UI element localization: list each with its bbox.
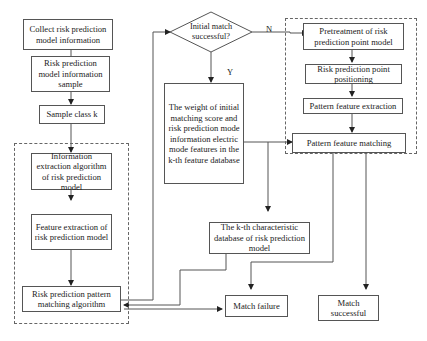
node-info-extract: Information extraction algorithm of risk… bbox=[31, 153, 112, 190]
node-weight: The weight of initial matching score and… bbox=[164, 83, 244, 184]
node-match-successful: Match successful bbox=[318, 295, 379, 321]
node-class-k: Sample class k bbox=[39, 105, 105, 124]
node-kth-database: The k-th characteristic database of risk… bbox=[209, 222, 310, 254]
node-collect: Collect risk prediction model informatio… bbox=[23, 19, 113, 50]
node-pretreatment: Pretreatment of risk prediction point mo… bbox=[303, 23, 404, 50]
decision-initial-match: Initial match successful? bbox=[180, 22, 242, 42]
node-pattern-matching: Pattern feature matching bbox=[292, 133, 406, 153]
edge-label-yes: Y bbox=[227, 67, 233, 77]
node-pattern-matching-algorithm: Risk prediction pattern matching algorit… bbox=[22, 286, 121, 312]
node-match-failure: Match failure bbox=[225, 295, 288, 317]
edge-label-no: N bbox=[266, 24, 272, 34]
node-pattern-extraction: Pattern feature extraction bbox=[303, 98, 403, 114]
node-positioning: Risk prediction point positioning bbox=[305, 64, 402, 84]
node-sample: Risk prediction model information sample bbox=[31, 56, 110, 92]
node-feature-extract: Feature extraction of risk prediction mo… bbox=[31, 214, 112, 250]
